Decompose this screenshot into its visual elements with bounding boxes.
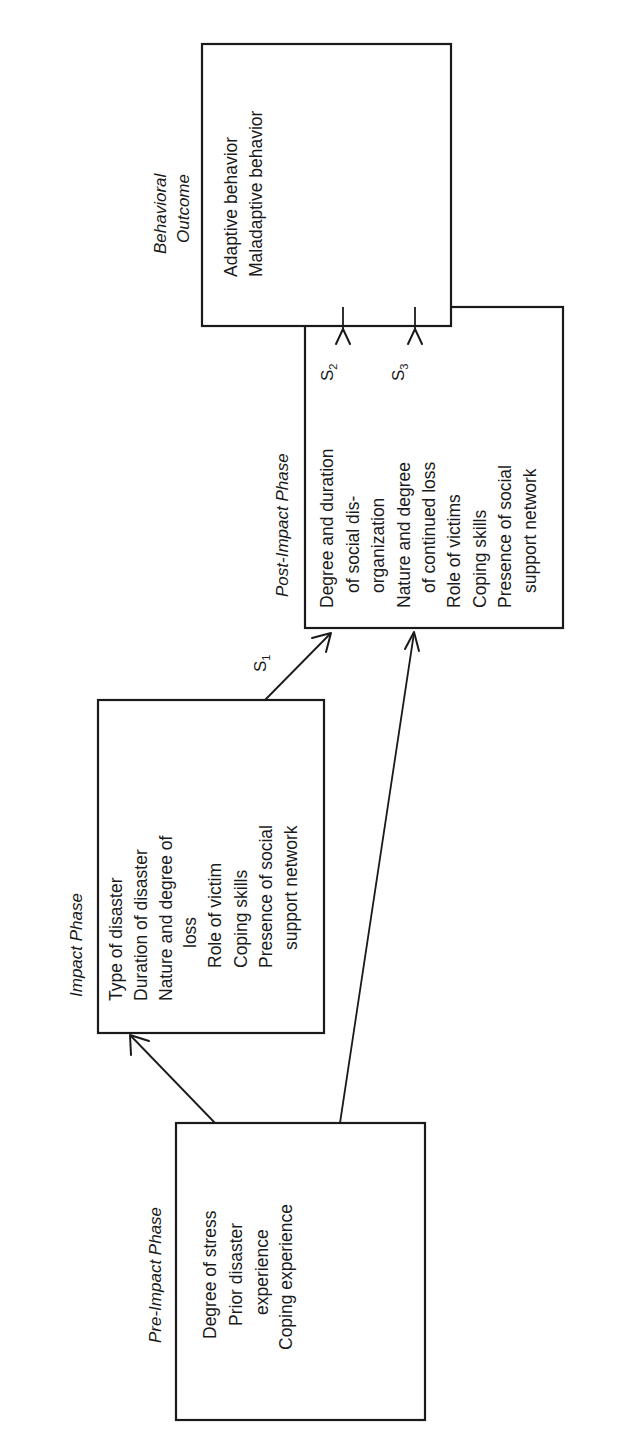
behavioral-outcome-item: Adaptive behavior [221, 137, 241, 277]
impact-item: loss [180, 917, 200, 948]
behavioral-outcome-node: Behavioral Outcome Adaptive behavior Mal… [151, 44, 451, 326]
impact-title: Impact Phase [67, 893, 86, 997]
pre-impact-item: Degree of stress [200, 1210, 220, 1339]
arrow-pre-to-impact [130, 1035, 215, 1123]
pre-impact-item: experience [252, 1229, 272, 1315]
impact-item: support network [281, 825, 301, 950]
arrow-impact-to-post-s1: S1 [251, 633, 331, 700]
impact-item: Duration of disaster [131, 849, 151, 1001]
post-impact-item: Nature and degree [394, 462, 414, 608]
impact-item: Type of disaster [106, 877, 126, 1001]
arrow-pre-to-post [340, 632, 419, 1123]
post-impact-item: Degree and duration [317, 448, 337, 608]
post-impact-item: of continued loss [419, 461, 439, 593]
impact-item: Coping skills [231, 870, 251, 968]
post-impact-item: organization [368, 498, 388, 593]
post-impact-item: of social dis- [343, 496, 363, 593]
behavioral-outcome-title: Outcome [174, 174, 193, 243]
pre-impact-title: Pre-Impact Phase [146, 1207, 165, 1343]
impact-item: Presence of social [256, 825, 276, 968]
post-impact-item: Presence of social [495, 465, 515, 608]
impact-phase-node: Impact Phase Type of disaster Duration o… [67, 700, 324, 1033]
behavioral-outcome-item: Maladaptive behavior [246, 110, 266, 277]
impact-item: Role of victim [205, 863, 225, 968]
pre-impact-phase-node: Pre-Impact Phase Degree of stress Prior … [146, 1123, 425, 1420]
behavioral-outcome-title: Behavioral [151, 172, 170, 254]
pre-impact-item: Coping experience [276, 1204, 296, 1350]
post-impact-title: Post-Impact Phase [273, 453, 292, 597]
post-impact-item: Coping skills [470, 510, 490, 608]
s1-label: S1 [251, 655, 272, 672]
impact-item: Nature and degree of [156, 835, 176, 1001]
disaster-phase-diagram: Pre-Impact Phase Degree of stress Prior … [0, 0, 624, 1436]
pre-impact-item: Prior disaster [226, 1223, 246, 1326]
post-impact-item: Role of victims [444, 494, 464, 608]
post-impact-phase-node: Post-Impact Phase Degree and duration of… [273, 307, 563, 628]
post-impact-item: support network [520, 468, 540, 593]
